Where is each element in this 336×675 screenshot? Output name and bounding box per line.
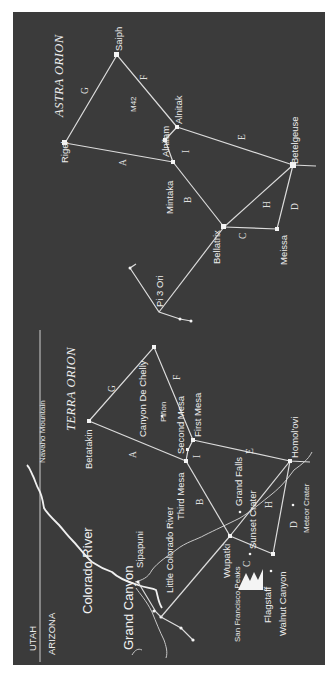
utah-label: UTAH: [27, 626, 38, 651]
m42-label: M42: [129, 96, 138, 112]
terra-segment-h: H: [264, 501, 274, 508]
grand-canyon-node-1: [152, 609, 155, 612]
sunset-crater-label: Sunset Crater: [247, 490, 258, 549]
arizona-label: ARIZONA: [46, 612, 57, 655]
first-mesa-node: [191, 438, 195, 442]
betelgeuse-label: Betelgeuse: [289, 116, 300, 164]
sunset-crater-node: [249, 553, 252, 556]
rigel-label: Rigel: [59, 141, 70, 163]
alnitak-star: [175, 125, 179, 129]
wupatki-node: [228, 534, 232, 538]
third-mesa-node: [184, 459, 188, 463]
astra-segment-i: I: [181, 150, 191, 153]
meissa-label: Meissa: [278, 234, 289, 265]
terra-segment-e: E: [245, 448, 255, 454]
navaho-mountain-label: Navaho Mountain: [38, 400, 47, 463]
pi3-ori-label: Pi 3 Ori: [154, 275, 165, 307]
meissa-star: [275, 227, 279, 231]
terra-orion-title: TERRA ORION: [64, 347, 78, 431]
pi3-star-2: [179, 318, 182, 321]
astra-orion-title: ASTRA ORION: [52, 34, 66, 118]
terra-segment-g: G: [107, 385, 117, 392]
meteor-crater-label: Meteor Crater: [302, 483, 311, 533]
astra-segment-b: B: [183, 197, 193, 203]
terra-segment-b: B: [195, 499, 205, 505]
little-colorado-river-label: Little Colorado River: [164, 507, 175, 593]
bellatrix-star: [221, 224, 226, 229]
sipapuni-label: Sipapuni: [134, 531, 145, 568]
homolovi-node: [288, 459, 292, 463]
terra-segment-d: D: [289, 521, 299, 528]
flagstaff-label: Flagstaff: [262, 586, 273, 623]
terra-segment-a: A: [128, 451, 138, 458]
pi3-star-3: [190, 320, 193, 323]
wupatki-label: Wupatki: [221, 544, 232, 578]
alnilam-label: Alnilam: [160, 126, 171, 157]
sipapuni-node: [136, 580, 139, 583]
terra-segment-f: F: [172, 375, 182, 380]
astra-segment-a: A: [118, 159, 128, 166]
astra-segment-d: D: [290, 203, 300, 210]
canyon-de-chelly-node: [152, 345, 156, 349]
second-mesa-node: [186, 448, 189, 451]
meteor-crater-node: [292, 504, 295, 507]
third-mesa-label: Third Mesa: [175, 472, 186, 520]
orion-correlation-map: ASTRA ORION Saiph Rigel M42 Alnilam Alni…: [0, 0, 336, 675]
astra-segment-g: G: [80, 87, 90, 94]
san-francisco-peaks-label: San Francisco Peaks: [233, 566, 242, 642]
walnut-canyon-node: [271, 552, 275, 556]
astra-segment-f: F: [139, 75, 149, 80]
pinon-label: Piñon: [159, 402, 168, 422]
flagstaff-node: [270, 570, 273, 573]
saiph-label: Saiph: [113, 27, 124, 51]
alnitak-label: Alnitak: [173, 95, 184, 124]
walnut-canyon-label: Walnut Canyon: [277, 571, 288, 636]
canyon-de-chelly-label: Canyon De Chelly: [137, 360, 148, 437]
betatakin-node: [87, 419, 91, 423]
bellatrix-label: Bellatrix: [211, 230, 222, 264]
saiph-star: [114, 52, 119, 57]
grand-falls-node: [239, 511, 242, 514]
second-mesa-label: Second Mesa: [175, 395, 186, 454]
colorado-river-label: Colorado River: [80, 527, 95, 614]
terra-segment-c: C: [242, 561, 252, 567]
astra-segment-e: E: [237, 134, 247, 140]
homolovi-label: Homol'ovi: [289, 417, 300, 458]
betatakin-label: Betatakin: [83, 429, 94, 469]
pi3-star-1: [129, 267, 132, 270]
astra-segment-h: H: [262, 201, 272, 208]
grand-canyon-label: Grand Canyon: [121, 565, 136, 650]
mintaka-label: Mintaka: [164, 180, 175, 214]
first-mesa-label: First Mesa: [192, 392, 203, 437]
astra-segment-c: C: [238, 233, 248, 239]
grand-falls-label: Grand Falls: [233, 457, 244, 506]
mintaka-star: [171, 160, 175, 164]
terra-segment-i: I: [192, 455, 202, 458]
grand-canyon-node-4: [191, 638, 194, 641]
grand-canyon-node-3: [179, 626, 182, 629]
